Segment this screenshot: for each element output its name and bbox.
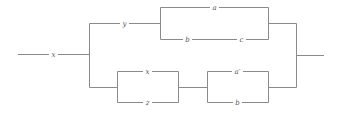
upper-bottom-label-2: c <box>240 36 244 44</box>
upper-top-label: a <box>212 4 216 12</box>
lower-box1-top-label: x <box>146 68 150 76</box>
lower-box2-bottom-label: b <box>235 99 240 107</box>
lower-box1-bottom-label: z <box>145 99 150 107</box>
lower-branch: x z a′ b <box>90 67 297 107</box>
switching-circuit-diagram: x y a b c <box>0 0 340 113</box>
input-wire: x <box>18 50 90 59</box>
upper-branch: y <box>90 19 161 28</box>
lower-box2-top-label: a′ <box>235 68 241 76</box>
input-switch-label: x <box>52 51 56 59</box>
upper-parallel-block: a b c <box>161 3 297 44</box>
upper-bottom-label-1: b <box>185 36 190 44</box>
